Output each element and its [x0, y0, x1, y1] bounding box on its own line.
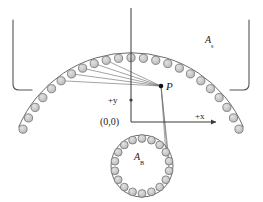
node-marker — [102, 56, 110, 64]
label-body-ab: AB — [134, 152, 144, 164]
node-marker — [129, 136, 137, 144]
label-body-ab-subscript: B — [140, 159, 144, 166]
node-marker — [152, 56, 160, 64]
bracket-left — [13, 20, 32, 90]
node-marker — [139, 54, 147, 62]
node-marker — [129, 188, 137, 196]
node-marker — [162, 176, 170, 184]
node-marker — [223, 103, 231, 111]
node-marker — [111, 157, 119, 165]
node-marker — [114, 54, 122, 62]
node-marker — [175, 64, 183, 72]
node-marker — [156, 183, 164, 191]
node-marker — [57, 77, 65, 85]
node-marker — [79, 64, 87, 72]
label-axis-x: +x — [195, 112, 205, 121]
node-marker — [148, 188, 156, 196]
node-marker — [235, 125, 243, 133]
bracket-right — [230, 20, 249, 90]
rays-arc-to-point-p — [61, 60, 161, 86]
figure-container: P As AB +y +x (0,0) — [0, 0, 263, 202]
node-marker — [31, 103, 39, 111]
node-marker — [120, 183, 128, 191]
node-marker — [148, 136, 156, 144]
node-marker — [186, 70, 194, 78]
point-p-marker — [159, 84, 164, 89]
node-marker — [162, 148, 170, 156]
node-marker — [165, 157, 173, 165]
node-marker — [138, 190, 146, 198]
node-marker — [215, 94, 223, 102]
node-marker — [165, 167, 173, 175]
node-marker — [90, 60, 98, 68]
node-marker — [114, 176, 122, 184]
node-marker — [114, 148, 122, 156]
label-origin: (0,0) — [100, 117, 119, 127]
node-marker — [164, 60, 172, 68]
label-axis-y: +y — [108, 96, 118, 105]
node-marker — [156, 141, 164, 149]
node-marker — [120, 141, 128, 149]
node-marker — [138, 135, 146, 143]
node-marker — [229, 114, 237, 122]
axis-y-tick-marker — [129, 98, 132, 101]
node-marker — [67, 70, 75, 78]
label-point-p: P — [166, 81, 173, 92]
node-marker — [197, 77, 205, 85]
node-marker — [39, 94, 47, 102]
node-marker — [19, 125, 27, 133]
node-marker — [47, 85, 55, 93]
node-marker — [24, 114, 32, 122]
axis-group — [129, 8, 216, 122]
node-marker — [206, 85, 214, 93]
body-node-group — [111, 135, 173, 198]
label-surface-as-subscript: s — [211, 42, 213, 49]
node-marker — [111, 167, 119, 175]
diagram-canvas — [0, 0, 263, 202]
label-surface-as: As — [205, 35, 214, 47]
